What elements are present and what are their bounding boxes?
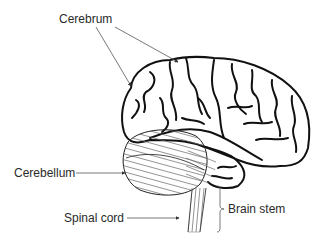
brain-diagram: Cerebrum Cerebellum Spinal cord Brain st…: [0, 0, 327, 246]
cerebellum-label: Cerebellum: [14, 166, 75, 180]
brain-stem-bracket: [217, 186, 224, 232]
cerebrum-arrow-2: [115, 27, 178, 62]
cerebrum-label: Cerebrum: [59, 12, 112, 26]
cerebrum-arrow-1: [96, 27, 131, 86]
spinal-cord-label: Spinal cord: [64, 211, 124, 225]
brain-stem-label: Brain stem: [228, 202, 285, 216]
cerebrum-shape: [122, 57, 309, 188]
